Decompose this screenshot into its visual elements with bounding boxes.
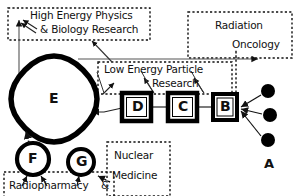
node-b-label: B (220, 99, 231, 115)
source-dot-a1 (261, 84, 275, 98)
research-label: Research (152, 78, 199, 90)
node-g-label: G (76, 154, 88, 170)
source-group-a-label: A (264, 157, 274, 172)
nuclear-label: Nuclear (114, 150, 153, 162)
low-energy-particle-label: Low Energy Particle (104, 64, 203, 76)
edge-a1-to-b (241, 95, 261, 107)
edge-e-to-low-energy (103, 83, 114, 94)
node-e-label: E (49, 91, 59, 107)
radiopharmacy-label: Radiopharmacy & (9, 180, 109, 192)
edge-e-to-high-energy-fan-a (21, 23, 36, 33)
node-c-label: C (178, 99, 188, 115)
radiation-label: Radiation (215, 20, 263, 32)
oncology-label: Oncology (232, 39, 280, 51)
source-dot-a3 (261, 133, 275, 147)
edge-a2-to-b (241, 109, 262, 114)
source-dot-a2 (263, 108, 277, 122)
biology-research-label: & Biology Research (40, 24, 138, 36)
node-d-label: D (132, 99, 144, 115)
diagram-root: High Energy Physics & Biology Research R… (0, 0, 300, 196)
medicine-label: Medicine (112, 170, 157, 182)
high-energy-physics-label: High Energy Physics (30, 10, 133, 22)
edge-a3-to-b (241, 111, 261, 136)
node-f-label: F (28, 151, 38, 167)
